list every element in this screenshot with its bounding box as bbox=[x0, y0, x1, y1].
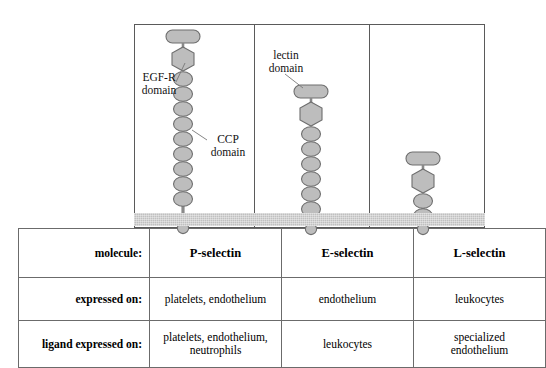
leader-line-lectin bbox=[285, 74, 303, 88]
annotation-ccp-domain: CCP domain bbox=[207, 133, 249, 158]
annotation-lectin-domain: lectin domain bbox=[258, 49, 314, 74]
annotation-egf-r-line2: domain bbox=[133, 84, 185, 97]
annotation-egf-r-line1: EGF-R bbox=[133, 71, 185, 84]
leader-line-ccp bbox=[192, 130, 207, 140]
annotation-lectin-line1: lectin bbox=[258, 49, 314, 62]
annotation-egf-r-domain: EGF-R domain bbox=[133, 71, 185, 96]
annotation-lectin-line2: domain bbox=[258, 62, 314, 75]
annotation-ccp-line1: CCP bbox=[207, 133, 249, 146]
annotation-ccp-line2: domain bbox=[207, 146, 249, 159]
